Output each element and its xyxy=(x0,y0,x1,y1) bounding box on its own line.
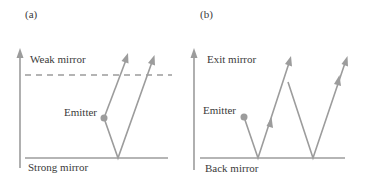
mid-arrowhead-icon xyxy=(267,117,274,128)
exit-mirror-label: Exit mirror xyxy=(207,53,257,65)
back-mirror-label: Back mirror xyxy=(205,162,259,174)
axis-arrowhead-icon xyxy=(191,48,198,58)
emitter-dot-a xyxy=(101,115,108,122)
axis-arrowhead-icon xyxy=(17,48,24,58)
ray-arrowhead-icon xyxy=(122,53,129,64)
ray-arrowhead-icon xyxy=(148,55,155,66)
weak-mirror-label: Weak mirror xyxy=(30,53,86,65)
panel-b-label: (b) xyxy=(200,8,213,21)
ray-arrowhead-icon xyxy=(342,56,349,67)
panel-b: (b) Exit mirror Emitter Back mirror xyxy=(191,8,349,174)
strong-mirror-label: Strong mirror xyxy=(28,161,89,173)
panel-a-label: (a) xyxy=(25,8,38,21)
emitter-label-a: Emitter xyxy=(64,106,97,118)
second-exit-ray-b xyxy=(288,63,345,158)
direct-ray-a xyxy=(104,60,126,118)
panel-a: (a) Weak mirror Emitter Strong mirror xyxy=(17,8,173,173)
first-exit-ray-b xyxy=(244,63,289,158)
reflected-ray-a xyxy=(104,62,152,158)
emitter-label-b: Emitter xyxy=(203,104,236,116)
ray-arrowhead-icon xyxy=(285,56,292,67)
emitter-dot-b xyxy=(241,114,248,121)
